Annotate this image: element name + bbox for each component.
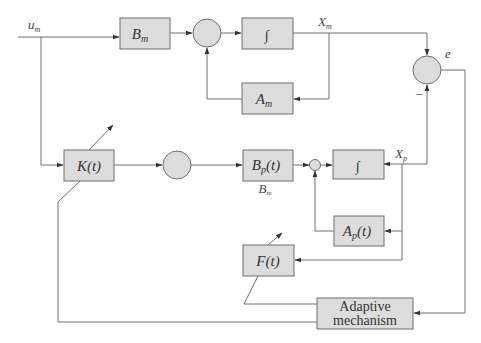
block-bm-label: B	[132, 26, 141, 42]
signal-xp-label: Xp	[394, 146, 407, 163]
wire-um-to-kt	[41, 37, 63, 165]
wire-xm-to-esum	[293, 33, 427, 55]
bpt-under-label: Bm	[258, 181, 271, 197]
mrac-block-diagram: Bm ∫ Am K(t) Bp(t) Bm ∫ Ap(t) F(t) Adapt…	[0, 0, 481, 343]
block-integrator-model[interactable]: ∫	[242, 18, 293, 49]
adaptive-line1: Adaptive	[339, 299, 390, 314]
block-kt[interactable]: K(t)	[64, 150, 114, 181]
wire-apt-to-sum3	[315, 171, 334, 231]
sum-junction-model[interactable]	[193, 19, 221, 47]
block-bpt[interactable]: Bp(t)	[243, 150, 293, 181]
block-apt[interactable]: Ap(t)	[334, 216, 384, 246]
sum-junction-input[interactable]	[163, 151, 191, 179]
block-bpt-label: B	[252, 157, 261, 173]
adaptive-line2: mechanism	[333, 313, 397, 328]
block-ft[interactable]: F(t)	[243, 245, 294, 276]
block-kt-label: K(t)	[76, 158, 101, 175]
sum-junction-error[interactable]	[413, 56, 441, 84]
signal-e-label: e	[445, 46, 451, 61]
adjust-arrow-kt	[89, 125, 113, 150]
block-am[interactable]: Am	[242, 83, 293, 114]
svg-text:Bp(t): Bp(t)	[252, 157, 280, 175]
adjust-arrow-ft	[268, 233, 282, 245]
block-integrator-plant[interactable]: ∫	[333, 150, 384, 179]
signal-xm-label: Xm	[317, 14, 332, 31]
block-adaptive-mechanism[interactable]: Adaptive mechanism	[317, 298, 413, 329]
wire-adaptive-to-ft	[244, 276, 317, 304]
minus-sign: –	[415, 85, 423, 100]
sum-junction-plant[interactable]	[310, 160, 321, 171]
signal-um-label: um	[28, 17, 41, 34]
svg-text:Ap(t): Ap(t)	[342, 223, 371, 241]
wire-xm-to-am	[294, 33, 329, 99]
wire-xp-to-apt	[385, 164, 402, 231]
block-ft-label: F(t)	[255, 253, 279, 270]
wire-am-to-sum1	[207, 48, 242, 99]
wire-e-to-adaptive	[414, 70, 465, 313]
block-bm[interactable]: Bm	[120, 18, 170, 49]
